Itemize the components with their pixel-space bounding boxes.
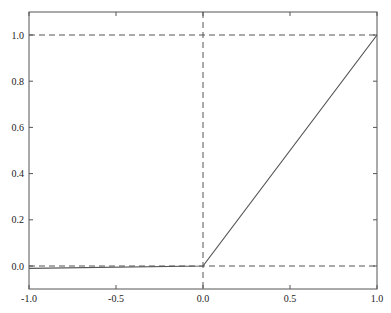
y-tick-label: 0.4 bbox=[12, 168, 25, 179]
reference-lines bbox=[29, 12, 377, 289]
x-tick-label: 0.0 bbox=[197, 293, 210, 304]
y-tick-label: 0.8 bbox=[12, 76, 25, 87]
chart: -1.0-0.50.00.51.0 0.00.20.40.60.81.0 bbox=[0, 0, 391, 313]
x-tick-label: 0.5 bbox=[284, 293, 297, 304]
y-tick-label: 0.2 bbox=[12, 214, 25, 225]
x-tick-label: -1.0 bbox=[21, 293, 37, 304]
x-tick-label: 1.0 bbox=[371, 293, 384, 304]
y-tick-label: 1.0 bbox=[12, 30, 25, 41]
x-tick-label: -0.5 bbox=[108, 293, 124, 304]
x-axis-ticks: -1.0-0.50.00.51.0 bbox=[21, 12, 383, 304]
y-tick-label: 0.6 bbox=[12, 122, 25, 133]
y-axis-ticks: 0.00.20.40.60.81.0 bbox=[12, 30, 378, 272]
y-tick-label: 0.0 bbox=[12, 261, 25, 272]
